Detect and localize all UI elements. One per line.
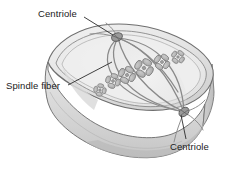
mitosis-cell-diagram: Centriole Spindle fiber Centriole	[0, 0, 236, 178]
label-spindle-fiber: Spindle fiber	[6, 80, 60, 91]
label-centriole-top: Centriole	[38, 8, 77, 19]
label-centriole-bottom: Centriole	[170, 141, 209, 152]
